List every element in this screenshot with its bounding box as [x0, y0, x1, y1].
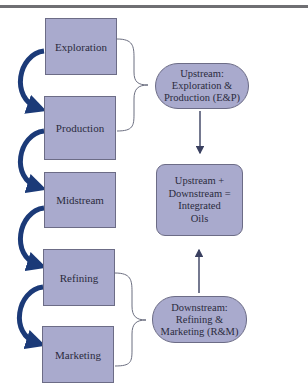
- upstream-oval: Upstream: Exploration & Production (E&P): [155, 63, 249, 109]
- stage-box-production: Production: [44, 96, 116, 160]
- integrated-oils-box: Upstream + Downstream = Integrated Oils: [156, 164, 243, 236]
- curved-arrow-production-midstream: [20, 131, 44, 187]
- stage-box-refining: Refining: [43, 249, 115, 306]
- upstream-line-2: Exploration &: [164, 80, 240, 92]
- integrated-line-4: Oils: [191, 213, 209, 226]
- stage-label: Exploration: [55, 41, 107, 53]
- upstream-line-3: Production (E&P): [164, 92, 240, 104]
- curved-arrow-midstream-refining: [20, 208, 44, 265]
- upstream-brace: [117, 39, 148, 131]
- integrated-line-3: Integrated: [178, 200, 221, 213]
- curved-arrow-refining-marketing: [19, 287, 43, 343]
- upstream-line-1: Upstream:: [164, 68, 240, 80]
- stage-box-exploration: Exploration: [45, 18, 117, 75]
- stage-label: Midstream: [56, 194, 104, 206]
- downstream-line-3: Marketing (R&M): [161, 326, 239, 338]
- stage-label: Refining: [60, 272, 99, 284]
- downstream-line-1: Downstream:: [161, 302, 239, 314]
- curved-arrow-exploration-production: [20, 51, 44, 108]
- stage-box-midstream: Midstream: [44, 172, 116, 228]
- downstream-oval: Downstream: Refining & Marketing (R&M): [152, 296, 247, 343]
- integrated-line-1: Upstream +: [175, 175, 224, 188]
- stage-box-marketing: Marketing: [42, 326, 114, 383]
- stage-label: Marketing: [55, 349, 101, 361]
- downstream-brace: [115, 273, 146, 366]
- downstream-line-2: Refining &: [161, 314, 239, 326]
- stage-label: Production: [56, 122, 104, 134]
- integrated-line-2: Downstream =: [168, 188, 230, 201]
